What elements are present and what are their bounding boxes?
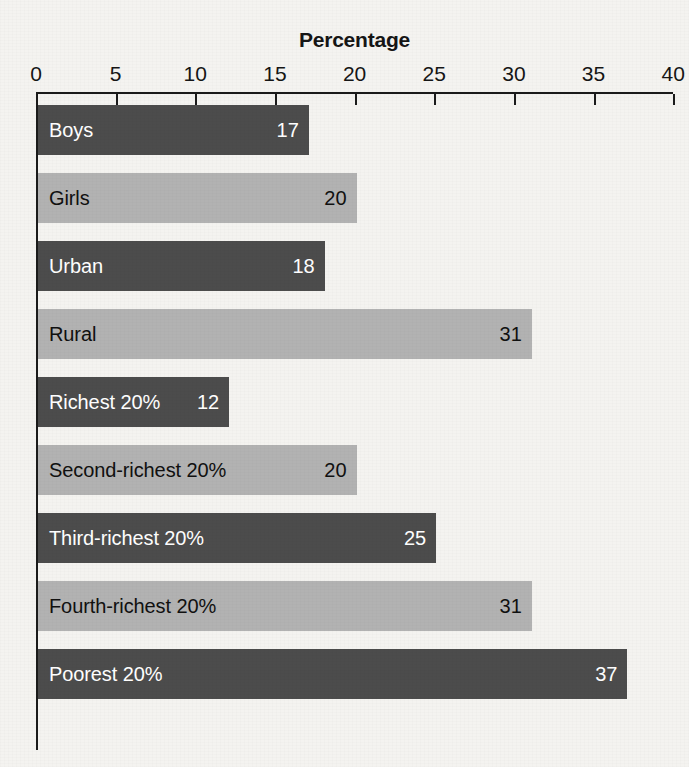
bar-label: Girls [49, 187, 90, 210]
bars-container: Boys17Girls20Urban18Rural31Richest 20%12… [38, 105, 689, 755]
bar-value: 31 [500, 323, 522, 346]
bar-poorest-20[interactable]: Poorest 20%37 [38, 649, 627, 699]
x-axis-tick-label-35: 35 [582, 62, 605, 86]
x-axis-tick-label-30: 30 [502, 62, 525, 86]
bar-fourth-richest-20[interactable]: Fourth-richest 20%31 [38, 581, 532, 631]
bar-label: Urban [49, 255, 103, 278]
bar-row: Girls20 [38, 173, 689, 223]
x-axis-tick-label-15: 15 [263, 62, 286, 86]
bar-chart: Percentage 0510152025303540 Boys17Girls2… [0, 0, 689, 767]
x-axis-tick-20 [355, 94, 357, 105]
x-axis-tick-label-5: 5 [110, 62, 122, 86]
bar-value: 17 [277, 119, 299, 142]
bar-richest-20[interactable]: Richest 20%12 [38, 377, 229, 427]
bar-label: Third-richest 20% [49, 527, 204, 550]
bar-third-richest-20[interactable]: Third-richest 20%25 [38, 513, 436, 563]
bar-girls[interactable]: Girls20 [38, 173, 357, 223]
chart-title: Percentage [36, 28, 673, 52]
bar-row: Urban18 [38, 241, 689, 291]
x-axis-tick-35 [594, 94, 596, 105]
bar-rural[interactable]: Rural31 [38, 309, 532, 359]
x-axis-tick-label-20: 20 [343, 62, 366, 86]
x-axis-tick-label-10: 10 [184, 62, 207, 86]
bar-value: 20 [324, 459, 346, 482]
bar-label: Boys [49, 119, 93, 142]
x-axis-tick-25 [434, 94, 436, 105]
bar-boys[interactable]: Boys17 [38, 105, 309, 155]
bar-value: 37 [595, 663, 617, 686]
bar-label: Fourth-richest 20% [49, 595, 216, 618]
bar-row: Third-richest 20%25 [38, 513, 689, 563]
bar-row: Boys17 [38, 105, 689, 155]
x-axis-tick-15 [275, 94, 277, 105]
x-axis-tick-label-25: 25 [423, 62, 446, 86]
x-axis-tick-label-0: 0 [30, 62, 42, 86]
bar-label: Second-richest 20% [49, 459, 226, 482]
bar-row: Poorest 20%37 [38, 649, 689, 699]
bar-row: Fourth-richest 20%31 [38, 581, 689, 631]
bar-value: 31 [500, 595, 522, 618]
bar-row: Rural31 [38, 309, 689, 359]
x-axis-tick-labels: 0510152025303540 [0, 62, 689, 88]
bar-label: Poorest 20% [49, 663, 162, 686]
bar-value: 20 [324, 187, 346, 210]
bar-value: 18 [292, 255, 314, 278]
bar-label: Rural [49, 323, 96, 346]
bar-value: 25 [404, 527, 426, 550]
bar-row: Second-richest 20%20 [38, 445, 689, 495]
bar-second-richest-20[interactable]: Second-richest 20%20 [38, 445, 357, 495]
x-axis-tick-10 [195, 94, 197, 105]
x-axis-tick-5 [116, 94, 118, 105]
bar-urban[interactable]: Urban18 [38, 241, 325, 291]
x-axis-tick-40 [673, 94, 675, 105]
bar-value: 12 [197, 391, 219, 414]
x-axis-tick-label-40: 40 [662, 62, 685, 86]
bar-label: Richest 20% [49, 391, 160, 414]
x-axis-tick-30 [514, 94, 516, 105]
bar-row: Richest 20%12 [38, 377, 689, 427]
